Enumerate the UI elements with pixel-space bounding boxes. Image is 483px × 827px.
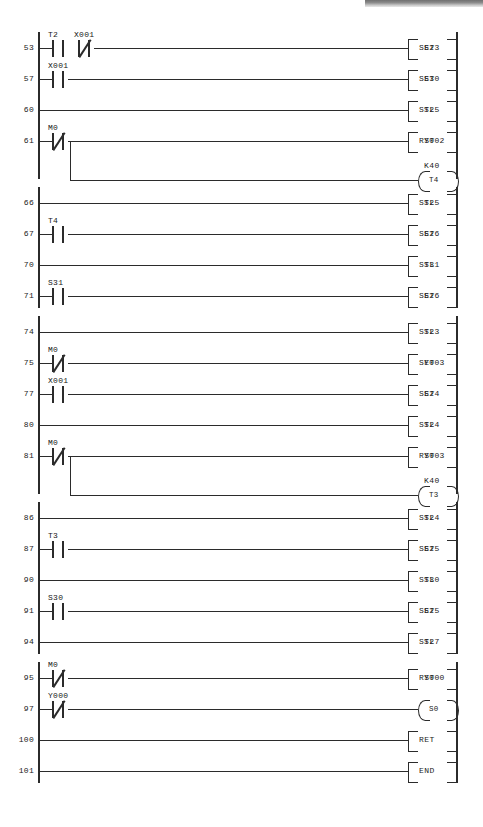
contact-label: T3 xyxy=(48,531,58,540)
contact-bar xyxy=(52,386,54,403)
ladder-diagram-sheet: 53T2X001SETS2357X001SETS3060STLS2561M0RS… xyxy=(0,0,483,827)
right-power-rail xyxy=(456,187,458,308)
rung-step-number: 77 xyxy=(8,389,34,398)
rung: 57X001SETS30 xyxy=(0,66,483,92)
rung-wire xyxy=(38,580,408,581)
bracket-left xyxy=(408,602,418,623)
contact-nc[interactable]: X001 xyxy=(74,40,94,57)
instruction-operand: S30 xyxy=(424,575,440,584)
rung: 71S31SETS26 xyxy=(0,283,483,309)
contact-label: S30 xyxy=(48,593,63,602)
bracket-left xyxy=(408,101,418,122)
contact-label: T4 xyxy=(48,216,58,225)
rung-step-number: 53 xyxy=(8,43,34,52)
rung: 77X001SETS24 xyxy=(0,381,483,407)
rung-wire xyxy=(38,110,408,111)
contact-bar xyxy=(62,541,64,558)
contact-slash xyxy=(50,700,67,719)
instruction-operand: Y002 xyxy=(424,136,445,145)
right-power-rail xyxy=(456,32,458,179)
instruction-operand: S23 xyxy=(424,327,440,336)
rung-wire-stub xyxy=(38,611,52,612)
timer-preset-label: K40 xyxy=(424,476,440,485)
contact-bar xyxy=(62,226,64,243)
rung-step-number: 70 xyxy=(8,260,34,269)
rung: 61M0RSTY002 xyxy=(0,128,483,154)
timer-preset-label: K40 xyxy=(424,161,440,170)
rung-wire xyxy=(94,48,408,49)
rung-wire xyxy=(68,709,418,710)
bracket-left xyxy=(408,633,418,654)
contact-label: Y000 xyxy=(48,691,68,700)
right-power-rail xyxy=(456,316,458,494)
contact-bar xyxy=(52,71,54,88)
rung-wire xyxy=(68,234,408,235)
instruction-operand: S24 xyxy=(424,513,440,522)
instruction-operand: S25 xyxy=(424,105,440,114)
bracket-left xyxy=(408,669,418,690)
bracket-left xyxy=(408,256,418,277)
rung-wire xyxy=(68,611,408,612)
left-power-rail xyxy=(38,316,40,494)
rung-step-number: 80 xyxy=(8,420,34,429)
instruction-operand: S24 xyxy=(424,420,440,429)
instruction-operand: S25 xyxy=(424,606,440,615)
instruction-operand: S30 xyxy=(424,74,440,83)
contact-slash-line xyxy=(52,700,65,718)
rung-wire xyxy=(68,79,408,80)
instruction-operand: S24 xyxy=(424,389,440,398)
right-power-rail xyxy=(456,662,458,783)
rung-step-number: 61 xyxy=(8,136,34,145)
contact-label: M0 xyxy=(48,660,58,669)
instruction-operand: S26 xyxy=(424,229,440,238)
bracket-left xyxy=(408,416,418,437)
rung-wire xyxy=(68,549,408,550)
contact-label: M0 xyxy=(48,438,58,447)
contact-label: X001 xyxy=(48,61,68,70)
contact-bar xyxy=(52,288,54,305)
contact-slash-line xyxy=(52,447,65,465)
contact-bar xyxy=(52,40,54,57)
rung-step-number: 66 xyxy=(8,198,34,207)
rung-wire-stub xyxy=(38,79,52,80)
contact-label: M0 xyxy=(48,345,58,354)
bracket-left xyxy=(408,70,418,91)
rung: 100RET xyxy=(0,727,483,753)
rung-wire xyxy=(38,425,408,426)
rung-step-number: 74 xyxy=(8,327,34,336)
bracket-left xyxy=(408,509,418,530)
bracket-left xyxy=(408,447,418,468)
bracket-left xyxy=(408,194,418,215)
rung-wire-stub xyxy=(38,48,52,49)
instruction-operand: S26 xyxy=(424,291,440,300)
rung-step-number: 91 xyxy=(8,606,34,615)
contact-label: M0 xyxy=(48,123,58,132)
contact-bar xyxy=(62,386,64,403)
bracket-left xyxy=(408,132,418,153)
rung-step-number: 71 xyxy=(8,291,34,300)
rung-step-number: 97 xyxy=(8,704,34,713)
rung-step-number: 101 xyxy=(8,766,34,775)
rung-wire-stub xyxy=(38,141,52,142)
instruction-operand: S31 xyxy=(424,260,440,269)
rung: 97Y000S0 xyxy=(0,696,483,722)
rung: 86STLS24 xyxy=(0,505,483,531)
bracket-left xyxy=(408,354,418,375)
instruction-name: END xyxy=(419,766,435,775)
coil-device-label: S0 xyxy=(429,705,439,713)
contact-slash-line xyxy=(52,132,65,150)
rung: 66STLS25 xyxy=(0,190,483,216)
rung: 101END xyxy=(0,758,483,784)
contact-label: S31 xyxy=(48,278,63,287)
rung-wire-stub xyxy=(38,234,52,235)
rung: 91S30SETS25 xyxy=(0,598,483,624)
rung: 53T2X001SETS23 xyxy=(0,35,483,61)
instruction-operand: S25 xyxy=(424,544,440,553)
rung-wire-stub xyxy=(38,363,52,364)
bracket-left xyxy=(408,731,418,752)
contact-label: X001 xyxy=(48,376,68,385)
instruction-name: RET xyxy=(419,735,435,744)
rung-wire xyxy=(38,740,408,741)
rung-wire xyxy=(68,363,408,364)
bracket-left xyxy=(408,225,418,246)
